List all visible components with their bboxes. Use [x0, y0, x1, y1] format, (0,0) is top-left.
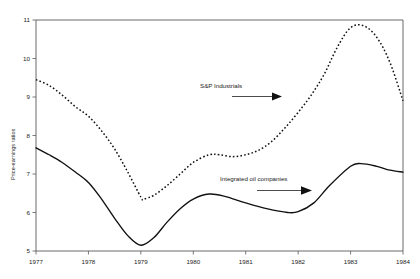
- y-axis: 567891011: [23, 16, 36, 254]
- annotation-label-integrated-oil-companies: Integrated oil companies: [220, 175, 287, 182]
- annotation-arrow-head-integrated-oil-companies: [301, 186, 312, 194]
- annotation-arrow-head-sp-industrials: [272, 93, 282, 101]
- series-line-sp-industrials: [36, 25, 403, 200]
- price-earnings-ratio-line-chart: 567891011 197719781979198019811982198319…: [0, 0, 420, 279]
- y-axis-title: Price-earnings ratios: [10, 128, 16, 180]
- x-tick-label: 1980: [186, 258, 200, 265]
- series-group: [36, 25, 403, 245]
- y-tick-label: 9: [27, 93, 31, 100]
- x-tick-label: 1983: [344, 258, 358, 265]
- y-tick-label: 8: [27, 132, 31, 139]
- annotation-label-sp-industrials: S&P Industrials: [200, 82, 242, 89]
- x-tick-label: 1978: [82, 258, 96, 265]
- x-tick-label: 1979: [134, 258, 148, 265]
- x-axis: 19771978197919801981198219831984: [29, 251, 410, 265]
- plot-frame: [36, 20, 403, 251]
- x-tick-label: 1981: [239, 258, 253, 265]
- annotation-sp-industrials: S&P Industrials: [200, 82, 282, 100]
- y-tick-label: 5: [27, 247, 31, 254]
- y-tick-label: 11: [24, 16, 31, 23]
- x-tick-label: 1982: [291, 258, 305, 265]
- y-tick-label: 7: [27, 170, 31, 177]
- chart-container: 567891011 197719781979198019811982198319…: [0, 0, 420, 279]
- y-tick-label: 6: [27, 209, 31, 216]
- x-tick-label: 1977: [29, 258, 43, 265]
- y-tick-label: 10: [23, 55, 30, 62]
- series-line-integrated-oil-companies: [36, 148, 403, 245]
- annotation-integrated-oil-companies: Integrated oil companies: [220, 175, 312, 195]
- x-tick-label: 1984: [396, 258, 410, 265]
